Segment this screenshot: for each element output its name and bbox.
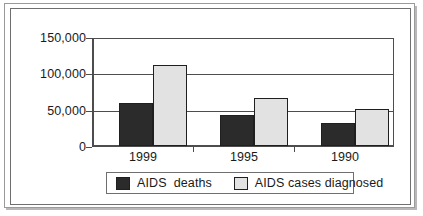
y-tick-label-100000: 100,000 (6, 67, 86, 81)
bar-1995-aids-deaths (220, 115, 254, 146)
x-tick-label-1995: 1995 (199, 150, 289, 164)
frame-shadow-bottom (6, 208, 417, 210)
legend-swatch-dark-icon (116, 177, 130, 190)
legend-label-aids-cases-diagnosed: AIDS cases diagnosed (255, 176, 383, 190)
gridline-100000 (94, 74, 393, 75)
y-tick-label-50000: 50,000 (6, 104, 86, 118)
plot-area (92, 38, 394, 147)
frame-shadow-right (415, 6, 417, 210)
x-tick-label-1990: 1990 (300, 150, 390, 164)
bar-1990-aids-cases-diagnosed (355, 109, 389, 146)
legend-swatch-light-icon (234, 177, 248, 190)
legend-item-aids-deaths: AIDS deaths (116, 176, 212, 190)
bar-1990-aids-deaths (321, 123, 355, 146)
y-tick-label-150000: 150,000 (6, 31, 86, 45)
x-axis-separator-2 (294, 147, 295, 152)
y-tick-label-0: 0 (6, 140, 86, 154)
bar-1999-aids-deaths (119, 103, 153, 146)
x-axis-separator-1 (193, 147, 194, 152)
chart-legend: AIDS deaths AIDS cases diagnosed (106, 172, 354, 194)
legend-label-aids-deaths: AIDS deaths (137, 176, 212, 190)
y-tick-mark-0 (86, 147, 92, 148)
bar-1999-aids-cases-diagnosed (153, 65, 187, 146)
bar-1995-aids-cases-diagnosed (254, 98, 288, 146)
legend-item-aids-cases-diagnosed: AIDS cases diagnosed (234, 176, 383, 190)
x-tick-label-1999: 1999 (98, 150, 188, 164)
